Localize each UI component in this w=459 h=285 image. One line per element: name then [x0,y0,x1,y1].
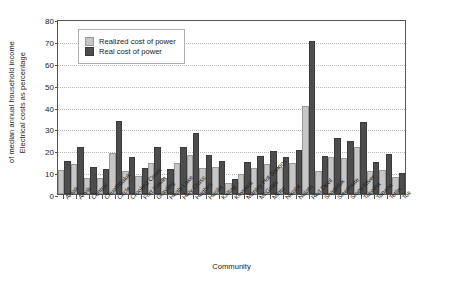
y-axis-title-line2: of median annual household income [6,41,17,163]
y-axis-tick-label: 80 [45,17,54,26]
legend-item-real: Real cost of power [85,47,176,56]
legend-swatch-realized [85,37,94,46]
legend-item-realized: Realized cost of power [85,37,176,46]
bar-group [315,21,328,194]
y-axis-tick-label: 70 [45,38,54,47]
legend-label-realized: Realized cost of power [99,37,176,46]
bar-group [289,21,302,194]
bar-group [212,21,225,194]
bar-group [225,21,238,194]
bar-group [251,21,264,194]
bar-group [58,21,71,194]
y-axis-tick-label: 20 [45,148,54,157]
bar-group [187,21,200,194]
bar-group [367,21,380,194]
bar-group [302,21,315,194]
chart-figure: of median annual household income Electr… [0,0,459,285]
y-axis-tick-label: 10 [45,170,54,179]
y-axis-tick-label: 50 [45,82,54,91]
chart-legend: Realized cost of power Real cost of powe… [78,29,185,64]
bar-group [392,21,405,194]
y-axis-tick-label: 60 [45,60,54,69]
x-axis-tick-labels: AniakAnvikCentralChuathbalukCircleCrooke… [57,197,406,257]
bar-group [199,21,212,194]
y-axis-tick-label: 30 [45,126,54,135]
legend-label-real: Real cost of power [99,47,162,56]
bar-group [328,21,341,194]
y-axis-title: of median annual household income Electr… [0,0,34,205]
y-axis-tick-label: 40 [45,104,54,113]
bar-group [354,21,367,194]
x-axis-title: Community [57,262,406,271]
y-axis-tick-label: 0 [50,192,54,201]
bar-group [379,21,392,194]
legend-swatch-real [85,47,94,56]
bar-group [341,21,354,194]
bar-group [238,21,251,194]
y-axis-title-line1: Electrical costs as percentage [17,52,28,153]
